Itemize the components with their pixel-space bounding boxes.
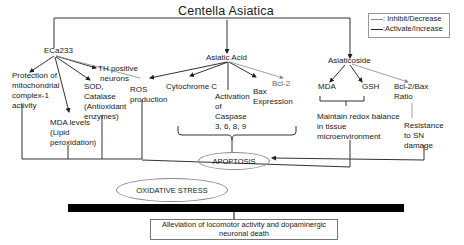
node-eca233: ECa233: [44, 46, 73, 56]
aa-to-bax: [229, 62, 256, 77]
effect-th-neurons: TH positiveneurons: [98, 64, 138, 84]
aa-to-bcl2-inhibit: [230, 62, 283, 78]
legend-item-activate: :Activate/Increase: [369, 24, 449, 34]
effect-cytochrome-c: Cytochrome C: [166, 82, 217, 92]
effect-gsh: GSH: [362, 82, 379, 92]
final-outcome-box: Alleviation of locomotor activity and do…: [150, 219, 338, 240]
inhibit-line-swatch: [371, 19, 383, 20]
legend-item-inhibit: : Inhibit/Decrease: [369, 14, 449, 24]
effect-redox-balance: Maintain redox balancein tissuemicroenvi…: [317, 112, 400, 142]
aa-to-ros: [150, 62, 227, 78]
effect-caspase: ActivationofCaspase3, 6, 8, 9: [215, 92, 250, 132]
effect-mda-levels: MDA levels(Lipidperoxidation): [50, 118, 96, 148]
node-asiatic-acid: Asiatic Acid: [206, 53, 247, 63]
title: Centella Asiatica: [178, 4, 274, 18]
black-bar: [68, 204, 404, 212]
apoptosis-node: APOPTOSIS: [198, 152, 270, 170]
effect-sod-catalase: SOD,Catalase(Antioxidantenzymes): [84, 82, 126, 122]
effect-bax: BaxExpression: [253, 87, 293, 107]
legend: : Inhibit/Decrease :Activate/Increase: [368, 13, 450, 38]
redox-brace: [320, 96, 364, 101]
eca-to-protection: [30, 56, 54, 72]
effect-bcl2: Bcl-2: [272, 79, 290, 89]
effect-mda: MDA: [318, 82, 336, 92]
node-asiaticoside: Asiaticoside: [328, 56, 371, 66]
effect-resistance-sn: Resistanceto SNdamage: [404, 121, 444, 151]
activate-line-swatch: [371, 29, 383, 30]
as-to-mda: [330, 65, 345, 82]
effect-protection: Protection ofmitochondrialcomplex-1activ…: [12, 71, 60, 111]
oxidative-stress-node: OXIDATIVE STRESS: [116, 178, 228, 202]
effect-bcl2-bax-ratio: Bcl-2/BaxRatio: [394, 82, 428, 102]
as-to-gsh: [350, 65, 362, 82]
effect-ros: ROSproduction: [130, 85, 167, 105]
top-connector: [54, 18, 350, 58]
